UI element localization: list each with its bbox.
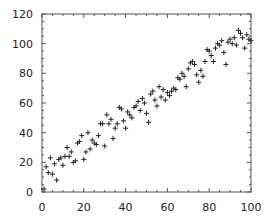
- x-axis-tick-labels: 020406080100: [39, 201, 262, 214]
- y-tick-label: 80: [19, 67, 33, 80]
- x-tick-label: 100: [241, 201, 262, 214]
- y-axis-tick-labels: 020406080100120: [12, 8, 33, 199]
- x-tick-label: 40: [119, 201, 133, 214]
- y-tick-label: 100: [12, 38, 33, 51]
- y-tick-label: 40: [19, 127, 33, 140]
- y-tick-label: 120: [12, 8, 33, 21]
- x-tick-label: 20: [77, 201, 91, 214]
- x-tick-label: 80: [202, 201, 216, 214]
- y-tick-label: 60: [19, 97, 33, 110]
- x-tick-label: 60: [160, 201, 174, 214]
- y-tick-label: 20: [19, 156, 33, 169]
- x-tick-label: 0: [39, 201, 46, 214]
- scatter-chart: 020406080100 020406080100120: [0, 0, 269, 222]
- y-tick-label: 0: [26, 186, 33, 199]
